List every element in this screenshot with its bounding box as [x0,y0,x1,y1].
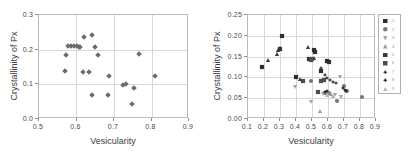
y-tick-label: 0.10 [221,73,242,80]
data-point-series-6 [310,56,314,60]
x-tick-label: 0.1 [242,123,252,130]
y-tick-label: 0.00 [221,115,242,122]
data-point [152,74,158,80]
x-tick [151,118,152,121]
legend-label: 3 [392,36,394,40]
legend-item-3[interactable]: 3 [379,34,400,42]
data-point-series-9 [325,93,329,97]
data-point-series-3 [293,85,297,89]
x-tick-label: 0.7 [338,123,348,130]
gridline-horizontal [248,77,374,78]
gridline-vertical [76,15,77,117]
x-tick [76,118,77,121]
figure-root: 0.50.60.70.80.90.00.10.20.3 Vesicularity… [0,0,410,163]
x-tick [113,118,114,121]
data-point [81,34,87,40]
y-tick [244,97,247,98]
legend-item-5[interactable]: 5 [379,51,400,59]
x-tick [247,118,248,121]
legend-label: 5 [392,53,394,57]
data-point-series-2 [360,95,364,99]
data-point-series-8 [325,88,329,92]
legend-item-2[interactable]: 2 [379,25,400,33]
data-point-series-5 [278,46,282,50]
y-tick [35,83,38,84]
data-point [92,44,98,50]
y-tick-label: 0.20 [221,31,242,38]
x-tick [279,118,280,121]
legend-marker-icon [379,19,392,24]
legend-label: 7 [392,70,394,74]
x-tick-label: 0.6 [70,123,80,130]
y-tick-label: 0.25 [221,11,242,18]
gridline-horizontal [248,36,374,37]
data-point-series-7 [319,66,323,70]
x-tick [295,118,296,121]
legend-label: 8 [392,78,394,82]
data-point-series-5 [306,45,310,49]
gridline-vertical [328,15,329,117]
legend-marker-icon [379,87,392,92]
x-tick [188,118,189,121]
legend-label: 9 [392,87,394,91]
x-tick-label: 0.8 [145,123,155,130]
data-point [63,52,69,58]
legend-label: 1 [392,19,394,23]
gridline-vertical [296,15,297,117]
legend-marker-icon [379,44,392,49]
data-point-series-1 [313,50,317,54]
data-point-series-1 [280,34,284,38]
data-point [86,69,92,75]
data-point [95,52,101,58]
data-point-series-3 [338,75,342,79]
legend-marker-icon [379,78,392,83]
data-point-series-4 [318,108,322,112]
x-tick-label: 0.5 [33,123,43,130]
y-tick [35,118,38,119]
legend-item-1[interactable]: 1 [379,17,400,25]
data-point-series-2 [335,99,339,103]
data-point-series-1 [327,60,331,64]
y-tick-label: 0.15 [221,52,242,59]
data-point [123,82,129,88]
legend-marker-icon [379,61,392,66]
data-point-series-6 [301,79,305,83]
legend-item-4[interactable]: 4 [379,42,400,50]
y-tick [244,56,247,57]
chart-panel-right: 0.10.20.30.40.50.60.70.80.90.000.050.100… [205,0,410,163]
data-point [132,85,138,91]
x-axis-title-right: Vesicularity [288,136,334,146]
x-tick-label: 0.7 [108,123,118,130]
data-point-series-9 [331,94,335,98]
x-tick-label: 0.9 [183,123,193,130]
y-tick-label: 0.05 [221,94,242,101]
y-tick [35,49,38,50]
data-point [106,73,112,79]
legend-item-8[interactable]: 8 [379,76,400,84]
y-tick-label: 0.3 [12,11,33,18]
legend-label: 4 [392,45,394,49]
gridline-vertical [344,15,345,117]
data-point [90,92,96,98]
x-tick-label: 0.3 [274,123,284,130]
legend-marker-icon [379,27,392,32]
data-point-series-6 [316,90,320,94]
legend-label: 6 [392,61,394,65]
legend-box[interactable]: 123456789 [378,14,401,94]
gridline-vertical [114,15,115,117]
legend-item-7[interactable]: 7 [379,68,400,76]
y-axis-title-left: Crystallinity of Px [9,31,19,100]
data-point-series-2 [309,79,313,83]
legend-item-9[interactable]: 9 [379,85,400,93]
y-tick [244,118,247,119]
x-tick [375,118,376,121]
x-tick-label: 0.8 [354,123,364,130]
legend-marker-icon [379,53,392,58]
data-point-series-8 [344,89,348,93]
x-tick [343,118,344,121]
x-tick-label: 0.2 [258,123,268,130]
legend-item-6[interactable]: 6 [379,59,400,67]
x-tick [263,118,264,121]
gridline-vertical [360,15,361,117]
data-point [89,32,95,38]
